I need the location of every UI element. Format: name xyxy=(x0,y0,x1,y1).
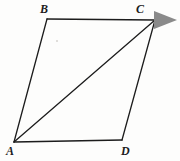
parallelogram-drawing xyxy=(0,0,180,161)
vertex-label-b: B xyxy=(40,3,48,15)
vertex-label-c: C xyxy=(136,3,144,15)
segment-ac-diagonal xyxy=(14,20,155,142)
segment-cd xyxy=(122,20,155,140)
segment-ab xyxy=(14,19,47,142)
segment-da xyxy=(14,140,122,142)
segment-bc xyxy=(47,19,155,20)
geometry-figure: A B C D xyxy=(0,0,180,161)
vertex-label-d: D xyxy=(121,145,130,157)
scan-speck xyxy=(56,40,58,42)
ray-bc-arrowhead-icon xyxy=(154,11,177,29)
vertex-label-a: A xyxy=(6,145,14,157)
